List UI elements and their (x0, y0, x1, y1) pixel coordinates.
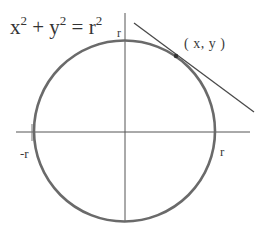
eq-x: x (10, 15, 21, 39)
eq-plus: + (27, 15, 49, 39)
eq-y-exp: 2 (60, 13, 67, 28)
label-neg-r: -r (20, 147, 29, 160)
circle-equation: x2 + y2 = r2 (10, 17, 102, 38)
tangent-point-marker (174, 54, 178, 58)
eq-equals: = (66, 15, 88, 39)
label-tangent-point: ( x, y ) (184, 37, 225, 51)
eq-x-exp: 2 (21, 13, 28, 28)
label-pos-r: r (220, 145, 224, 158)
eq-r-exp: 2 (96, 13, 103, 28)
eq-y: y (49, 15, 60, 39)
label-top-r: r (117, 27, 121, 39)
circle-tangent-diagram: x2 + y2 = r2 r ( x, y ) -r r (0, 0, 262, 228)
eq-r: r (89, 15, 96, 39)
